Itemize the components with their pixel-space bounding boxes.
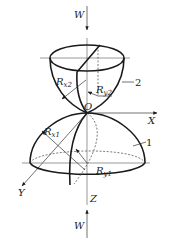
contact-diagram: W 2 Rx2 Ry2 O X Y Z	[0, 0, 171, 243]
radius-label-rx1: Rx1	[43, 126, 60, 139]
origin-label: O	[84, 101, 92, 112]
load-arrow-bottom: W	[74, 210, 87, 238]
load-label-bottom: W	[74, 220, 85, 231]
axes: O X Y Z	[18, 101, 157, 205]
radius-label-ry1: Ry1	[95, 165, 112, 178]
axis-label-x: X	[147, 115, 156, 126]
body-label-lower: 1	[146, 137, 152, 148]
axis-label-y: Y	[18, 187, 26, 198]
load-arrow-top: W	[74, 6, 87, 30]
radius-label-ry2: Ry2	[95, 84, 112, 97]
load-label-top: W	[74, 9, 85, 20]
axis-label-z: Z	[89, 193, 98, 204]
body-label-upper: 2	[135, 77, 141, 88]
